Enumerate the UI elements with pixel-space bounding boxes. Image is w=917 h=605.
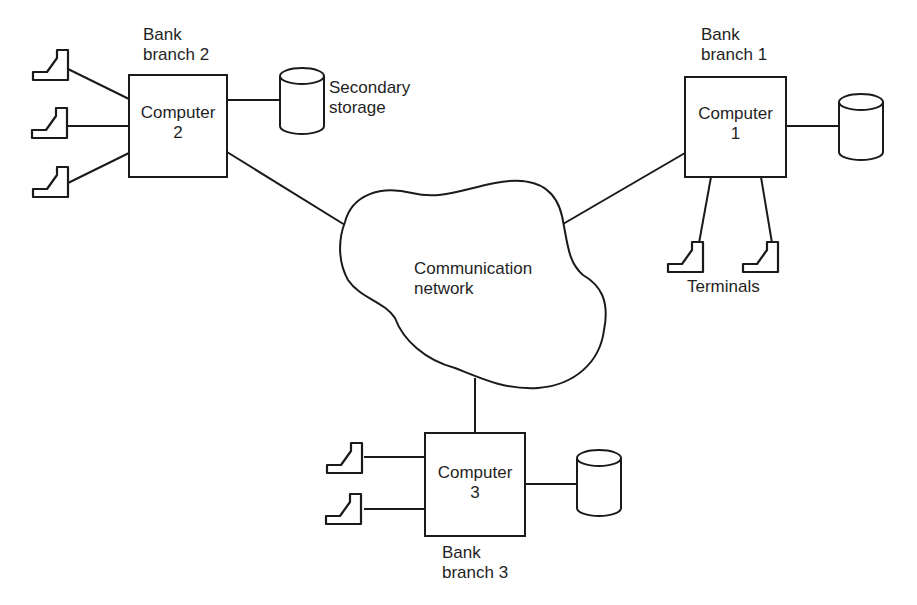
storage-cylinder-icon xyxy=(839,94,883,160)
computer-2-label: Computer 2 xyxy=(129,103,227,143)
terminal-icon xyxy=(327,443,362,473)
network-label-line2: network xyxy=(414,279,532,299)
terminal-icon xyxy=(743,242,778,272)
secondary-storage-label: Secondary storage xyxy=(329,78,410,118)
secondary-storage-line2: storage xyxy=(329,98,410,118)
terminal-icon xyxy=(33,50,68,80)
terminal-icon xyxy=(326,494,361,524)
network-label: Communication network xyxy=(414,259,532,299)
computer-3-label: Computer 3 xyxy=(425,463,525,503)
storage-cylinder-icon xyxy=(280,68,324,134)
branch-1-label-line2: branch 1 xyxy=(701,45,767,65)
computer-3-label-line1: Computer xyxy=(425,463,525,483)
branch-2-label: Bank branch 2 xyxy=(143,25,209,65)
terminal-icon xyxy=(668,242,703,272)
branch-2-label-line2: branch 2 xyxy=(143,45,209,65)
branch-2-label-line1: Bank xyxy=(143,25,209,45)
computer-2-label-line1: Computer xyxy=(129,103,227,123)
branch-1-label: Bank branch 1 xyxy=(701,25,767,65)
secondary-storage-line1: Secondary xyxy=(329,78,410,98)
computer-3-label-line2: 3 xyxy=(425,483,525,503)
terminal-icon xyxy=(33,167,68,197)
branch-3-label-line1: Bank xyxy=(442,543,508,563)
storage-cylinder-icon xyxy=(577,450,621,516)
branch-1-label-line1: Bank xyxy=(701,25,767,45)
computer-2-label-line2: 2 xyxy=(129,123,227,143)
computer-1-label-line2: 1 xyxy=(685,124,786,144)
branch-3-label: Bank branch 3 xyxy=(442,543,508,583)
computer-1-label: Computer 1 xyxy=(685,104,786,144)
branch-3-label-line2: branch 3 xyxy=(442,563,508,583)
terminals-label: Terminals xyxy=(687,277,760,297)
terminal-icon xyxy=(32,108,67,138)
network-diagram xyxy=(0,0,917,605)
network-label-line1: Communication xyxy=(414,259,532,279)
computer-1-label-line1: Computer xyxy=(685,104,786,124)
